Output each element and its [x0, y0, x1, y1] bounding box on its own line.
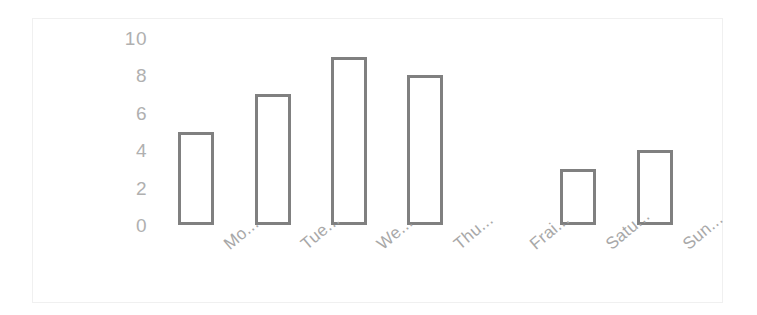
bar-slot	[617, 19, 693, 302]
plot-area: 1086420 Mo...Tue...We...Thu...Frai...Sat…	[33, 19, 722, 302]
bar[interactable]	[407, 75, 443, 225]
bar-slot	[387, 19, 463, 302]
bar[interactable]	[178, 132, 214, 226]
bar-slot	[234, 19, 310, 302]
bar[interactable]	[331, 57, 367, 225]
bars-layer	[33, 19, 722, 302]
bar[interactable]	[255, 94, 291, 225]
bar-slot	[311, 19, 387, 302]
bar-slot	[540, 19, 616, 302]
chart-frame: 1086420 Mo...Tue...We...Thu...Frai...Sat…	[32, 18, 723, 303]
bar-slot	[158, 19, 234, 302]
bar-slot	[464, 19, 540, 302]
